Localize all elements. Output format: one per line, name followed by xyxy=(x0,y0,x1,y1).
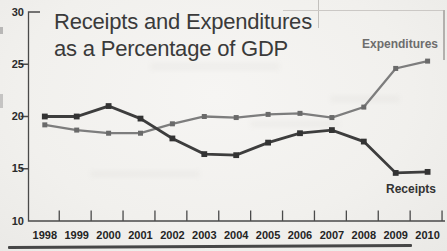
x-axis-tick-label: 2006 xyxy=(283,229,317,241)
x-axis-tick-label: 1998 xyxy=(28,229,62,241)
chart-title-line2: as a Percentage of GDP xyxy=(54,35,312,62)
scan-artifact-box-right xyxy=(443,10,445,60)
chart-title-line1: Receipts and Expenditures xyxy=(54,8,312,35)
scan-artifact-edge-mark xyxy=(0,94,3,108)
series-label-receipts: Receipts xyxy=(386,182,436,196)
y-axis-tick-label: 30 xyxy=(2,6,24,18)
series-label-expenditures: Expenditures xyxy=(362,37,438,51)
scan-artifact-edge-mark xyxy=(0,27,3,34)
x-axis-tick-label: 2007 xyxy=(315,229,349,241)
chart-title: Receipts and Expenditures as a Percentag… xyxy=(54,8,312,62)
figure: Receipts and Expenditures as a Percentag… xyxy=(0,0,447,251)
x-axis-tick-label: 2005 xyxy=(251,229,285,241)
x-axis-tick-label: 2000 xyxy=(92,229,126,241)
x-axis-tick-label: 2008 xyxy=(347,229,381,241)
x-axis-tick-label: 2003 xyxy=(187,229,221,241)
x-axis-tick-label: 2004 xyxy=(219,229,253,241)
y-axis-tick-label: 25 xyxy=(2,58,24,70)
x-axis-tick-label: 2001 xyxy=(124,229,158,241)
scan-artifact-box-top xyxy=(283,10,444,11)
x-axis-tick-label: 2009 xyxy=(379,229,413,241)
y-axis-tick-label: 15 xyxy=(2,162,24,174)
y-axis-tick-label: 20 xyxy=(2,110,24,122)
x-axis-tick-label: 1999 xyxy=(60,229,94,241)
y-axis-tick-label: 10 xyxy=(2,215,24,227)
scan-artifact-vertical-line xyxy=(318,0,319,28)
x-axis-tick-label: 2010 xyxy=(411,229,445,241)
x-axis-tick-label: 2002 xyxy=(155,229,189,241)
